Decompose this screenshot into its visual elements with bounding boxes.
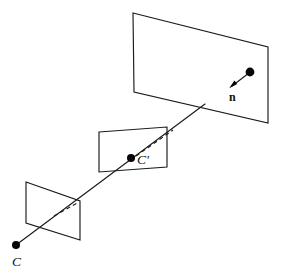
- label-normal-vector: n: [229, 90, 236, 104]
- dot-normal-origin: [246, 68, 255, 77]
- far-image-plane: [133, 13, 268, 123]
- middle-image-plane: [99, 127, 167, 172]
- geometry-diagram: C C' n: [0, 0, 283, 272]
- figure-canvas: C C' n: [0, 0, 283, 272]
- dot-camera-center-prime: [127, 154, 135, 162]
- label-camera-center: C: [12, 254, 22, 269]
- principal-ray-line: [16, 104, 205, 245]
- dot-camera-center: [12, 241, 20, 249]
- normal-vector-arrowhead: [229, 81, 237, 89]
- label-camera-center-prime: C': [137, 152, 150, 167]
